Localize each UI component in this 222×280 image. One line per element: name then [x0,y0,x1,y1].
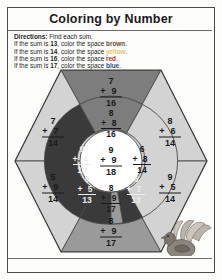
sum: 13 [82,195,92,205]
color-rule-14: If the sum is 14, color the space yellow… [14,48,210,55]
sum: 14 [48,138,58,148]
sum: 14 [165,194,175,204]
sum: 17 [106,238,116,248]
addend1: 7 [108,76,113,86]
rule-prefix: If the sum is [14,55,50,62]
rule-suffix: . [126,48,128,55]
title-divider [8,30,212,31]
addend1: 9 [108,145,113,155]
rule-color-word: yellow [106,48,126,55]
rule-mid: , color the space [57,48,106,55]
rule-color-word: brown [106,40,125,47]
addend1: 8 [109,108,114,118]
addend1: 6 [140,144,145,154]
rule-prefix: If the sum is [14,40,50,47]
addend1: 5 [50,172,55,182]
worksheet-page: Coloring by Number Directions: Find each… [0,0,222,280]
color-by-number-hexagon: 7 +9 16 8 +8 16 9 +9 18 8 + [11,66,211,256]
addend1: 8 [108,216,113,226]
addend1: 8 [85,174,90,184]
page-title: Coloring by Number [0,12,222,26]
directions-intro: Find each sum. [47,33,92,40]
directions-intro-line: Directions: Find each sum. [14,33,210,40]
sum: 16 [106,98,116,108]
addend1: 7 [50,116,55,126]
directions-label: Directions: [14,33,47,40]
addend1: 9 [167,172,172,182]
rule-mid: , color the space [57,40,106,47]
sum: 17 [106,204,116,214]
sum: 14 [165,138,175,148]
addend1: 9 [80,144,85,154]
sum: 14 [137,165,147,175]
rule-prefix: If the sum is [14,48,50,55]
color-rule-16: If the sum is 16, color the space red. [14,55,210,62]
directions-block: Directions: Find each sum. If the sum is… [14,33,210,69]
footer-divider [8,258,212,259]
rule-mid: , color the space [57,55,106,62]
sum: 16 [106,129,116,139]
addend1: 6 [134,174,139,184]
rule-suffix: . [125,40,127,47]
color-rule-13: If the sum is 13, color the space brown. [14,40,210,47]
sum: 13 [131,195,141,205]
rule-suffix: . [116,55,118,62]
addend1: 8 [109,183,114,193]
sum: 18 [106,167,116,177]
sum: 14 [48,194,58,204]
addend1: 8 [167,116,172,126]
rule-color-word: red [106,55,116,62]
